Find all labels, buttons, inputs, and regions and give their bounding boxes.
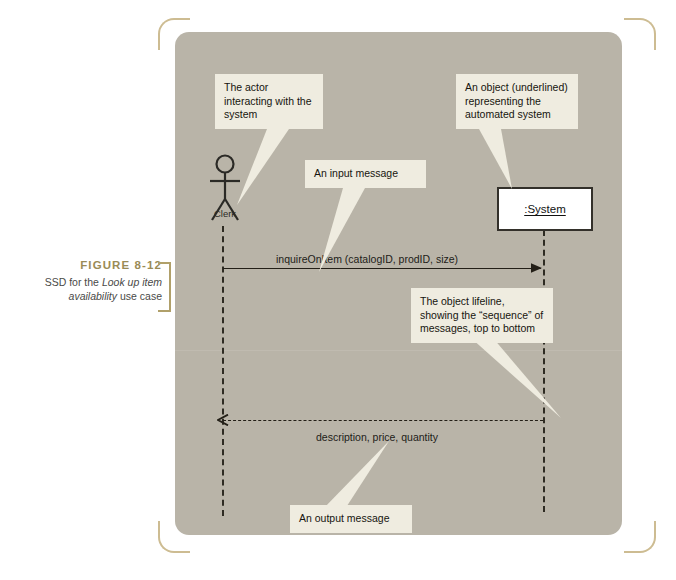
figure-caption-text: SSD for the Look up item availability us…: [22, 276, 162, 303]
system-object-box: :System: [497, 187, 593, 231]
callout-input-message: An input message: [305, 160, 426, 188]
callout-tail-object: [475, 129, 535, 191]
corner-bracket-top-right: [624, 18, 656, 50]
figure-number: FIGURE 8-12: [22, 258, 162, 272]
figure-page: FIGURE 8-12 SSD for the Look up item ava…: [0, 0, 676, 580]
callout-input-label: An input message: [314, 167, 398, 179]
caption-bracket: [158, 262, 171, 312]
message-line-response: [223, 420, 543, 421]
callout-tail-lifeline: [455, 338, 563, 420]
arrowhead-request-icon: [531, 262, 543, 274]
message-line-request: [223, 268, 541, 269]
callout-tail-actor: [233, 129, 293, 207]
diagram-panel: Clerk :System inquireOnItem (catalogID, …: [175, 32, 622, 535]
arrowhead-response-icon: [217, 414, 229, 426]
callout-output-message: An output message: [290, 505, 412, 533]
actor-lifeline: [222, 226, 224, 516]
callout-actor: The actor interacting with the system: [215, 74, 323, 129]
callout-tail-input: [313, 188, 369, 274]
figure-caption: FIGURE 8-12 SSD for the Look up item ava…: [22, 258, 162, 303]
corner-bracket-bottom-right: [624, 521, 656, 553]
actor-label: Clerk: [187, 208, 263, 219]
system-object-label: :System: [524, 203, 566, 215]
callout-object: An object (underlined) representing the …: [456, 74, 578, 129]
callout-object-lifeline: The object lifeline, showing the “sequen…: [411, 288, 553, 343]
callout-tail-output: [315, 441, 391, 511]
callout-output-label: An output message: [299, 512, 389, 524]
caption-suffix: use case: [117, 290, 162, 302]
caption-prefix: SSD for the: [45, 276, 102, 288]
